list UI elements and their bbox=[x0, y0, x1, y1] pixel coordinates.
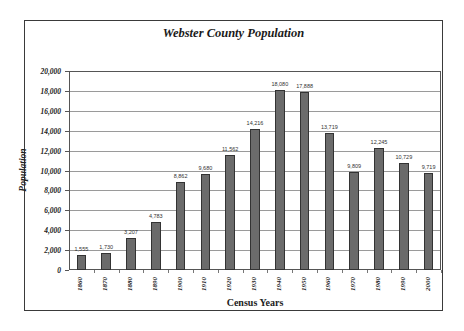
bar-value-label: 8,862 bbox=[161, 173, 201, 179]
bar-value-label: 11,562 bbox=[210, 146, 250, 152]
bar-value-label: 12,245 bbox=[359, 139, 399, 145]
bar-1910 bbox=[201, 174, 211, 270]
y-tick-label: 8,000 bbox=[2, 186, 61, 195]
x-tick-mark bbox=[342, 270, 343, 273]
bar-1870 bbox=[101, 253, 111, 270]
bar-value-label: 9,809 bbox=[334, 163, 374, 169]
bar-1970 bbox=[349, 172, 359, 270]
bar-1900 bbox=[176, 182, 186, 270]
bar-1960 bbox=[325, 133, 335, 270]
x-tick-label: 1990 bbox=[399, 277, 407, 291]
y-tick-mark bbox=[65, 230, 69, 231]
bar-value-label: 3,207 bbox=[111, 229, 151, 235]
gridline bbox=[70, 111, 440, 112]
x-tick-mark bbox=[168, 270, 169, 273]
x-tick-label: 1860 bbox=[76, 277, 84, 291]
y-tick-label: 4,000 bbox=[2, 226, 61, 235]
y-tick-label: 2,000 bbox=[2, 246, 61, 255]
y-tick-mark bbox=[65, 151, 69, 152]
bar-value-label: 9,719 bbox=[409, 164, 449, 170]
x-tick-mark bbox=[292, 270, 293, 273]
y-tick-label: 14,000 bbox=[2, 126, 61, 135]
bar-value-label: 10,729 bbox=[384, 154, 424, 160]
bar-1860 bbox=[77, 255, 87, 270]
x-tick-mark bbox=[267, 270, 268, 273]
y-tick-label: 10,000 bbox=[2, 166, 61, 175]
x-tick-label: 1930 bbox=[250, 277, 258, 291]
y-tick-mark bbox=[65, 71, 69, 72]
bar-1890 bbox=[151, 222, 161, 270]
y-tick-mark bbox=[65, 190, 69, 191]
x-tick-label: 1880 bbox=[126, 277, 134, 291]
y-tick-label: 6,000 bbox=[2, 206, 61, 215]
bar-1990 bbox=[399, 163, 409, 270]
x-tick-label: 1870 bbox=[101, 277, 109, 291]
bar-value-label: 17,888 bbox=[285, 83, 325, 89]
y-tick-mark bbox=[65, 270, 69, 271]
x-tick-label: 1900 bbox=[176, 277, 184, 291]
y-tick-label: 18,000 bbox=[2, 86, 61, 95]
y-tick-label: 0 bbox=[2, 266, 61, 275]
x-tick-label: 1910 bbox=[200, 277, 208, 291]
bar-value-label: 14,216 bbox=[235, 120, 275, 126]
bar-value-label: 9,680 bbox=[185, 165, 225, 171]
bar-1950 bbox=[300, 92, 310, 270]
x-tick-mark bbox=[218, 270, 219, 273]
bar-1920 bbox=[225, 155, 235, 270]
x-tick-mark bbox=[119, 270, 120, 273]
x-tick-mark bbox=[193, 270, 194, 273]
y-tick-label: 20,000 bbox=[2, 67, 61, 76]
y-tick-mark bbox=[65, 210, 69, 211]
x-tick-mark bbox=[94, 270, 95, 273]
chart-title: Webster County Population bbox=[25, 26, 442, 41]
bar-value-label: 1,730 bbox=[86, 244, 126, 250]
x-tick-label: 1970 bbox=[349, 277, 357, 291]
x-tick-mark bbox=[391, 270, 392, 273]
x-tick-label: 1980 bbox=[374, 277, 382, 291]
x-axis-label: Census Years bbox=[69, 297, 441, 308]
x-tick-label: 1890 bbox=[151, 277, 159, 291]
y-tick-mark bbox=[65, 111, 69, 112]
bar-1880 bbox=[126, 238, 136, 270]
bar-2000 bbox=[424, 173, 434, 270]
y-tick-mark bbox=[65, 131, 69, 132]
x-tick-mark bbox=[441, 270, 442, 273]
gridline bbox=[70, 91, 440, 92]
y-tick-mark bbox=[65, 91, 69, 92]
x-tick-mark bbox=[416, 270, 417, 273]
x-tick-label: 1940 bbox=[275, 277, 283, 291]
bar-value-label: 4,783 bbox=[136, 213, 176, 219]
bar-1980 bbox=[374, 148, 384, 270]
y-tick-mark bbox=[65, 171, 69, 172]
x-tick-label: 1960 bbox=[324, 277, 332, 291]
x-tick-mark bbox=[367, 270, 368, 273]
x-tick-mark bbox=[143, 270, 144, 273]
x-tick-mark bbox=[243, 270, 244, 273]
x-tick-label: 1920 bbox=[225, 277, 233, 291]
x-tick-label: 1950 bbox=[300, 277, 308, 291]
bar-value-label: 13,719 bbox=[309, 124, 349, 130]
bar-1930 bbox=[250, 129, 260, 270]
y-tick-label: 12,000 bbox=[2, 146, 61, 155]
x-tick-mark bbox=[317, 270, 318, 273]
bar-1940 bbox=[275, 90, 285, 270]
y-tick-label: 16,000 bbox=[2, 106, 61, 115]
x-tick-label: 2000 bbox=[424, 277, 432, 291]
